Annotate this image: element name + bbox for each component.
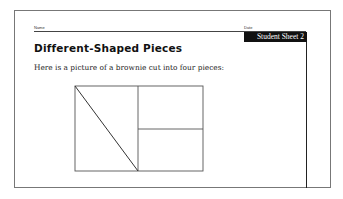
brownie-diagram [0, 0, 343, 199]
brownie-diagonal-cut [75, 86, 138, 171]
brownie-outline [75, 86, 203, 171]
